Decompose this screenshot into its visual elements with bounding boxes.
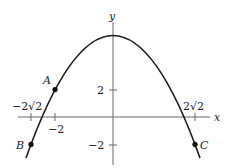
point-a-label: A: [42, 74, 51, 87]
tick-label-y-neg-2: −2: [88, 139, 104, 152]
point-a: [52, 87, 57, 92]
tick-label-2root2: 2√2: [183, 100, 204, 113]
point-b-label: B: [15, 139, 24, 152]
point-c: [192, 142, 197, 147]
tick-label-neg-2root2: −2√2: [12, 100, 42, 113]
parabola-diagram: x y −2√2 −2 2√2 2 −2 A B C: [0, 0, 232, 168]
point-c-label: C: [200, 139, 209, 152]
tick-label-neg-2: −2: [48, 123, 64, 136]
x-axis-label: x: [214, 111, 221, 124]
y-axis-label: y: [108, 10, 116, 23]
tick-label-y-2: 2: [97, 84, 104, 97]
point-b: [28, 142, 33, 147]
